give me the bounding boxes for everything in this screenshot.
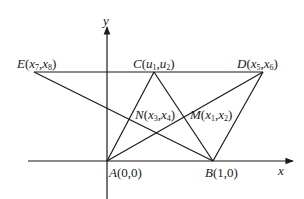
point-label-E: E(x7,x8) <box>17 57 56 72</box>
point-label-D: D(x5,x6) <box>237 57 278 72</box>
point-label-A: A(0,0) <box>109 166 142 179</box>
point-label-B: B(1,0) <box>205 166 238 179</box>
point-label-M: M(x1,x2) <box>190 108 232 123</box>
geometry-figure <box>0 0 304 199</box>
x-axis-label: x <box>278 164 284 177</box>
point-label-N: N(x3,x4) <box>135 108 175 123</box>
point-label-C: C(u1,u2) <box>133 57 175 72</box>
y-axis-label: y <box>103 14 109 27</box>
